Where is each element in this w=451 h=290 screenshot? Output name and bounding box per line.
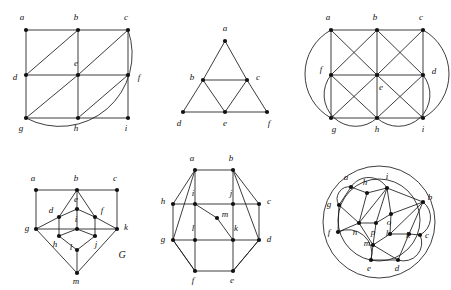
vertex-b — [375, 28, 379, 32]
edge-d-g — [36, 217, 59, 229]
vertex-e — [375, 73, 379, 77]
edge-b-d — [183, 80, 203, 112]
vertex-label-a: a — [326, 12, 331, 22]
vertex-a — [329, 28, 333, 32]
vertex-m — [215, 216, 219, 220]
vertex-label-l: l — [192, 223, 195, 233]
vertex-label-f: f — [101, 205, 105, 215]
vertex-label-e: e — [223, 118, 227, 128]
outer-arc-a-g — [305, 30, 331, 118]
vertex-m — [371, 243, 375, 247]
vertex-j — [93, 234, 97, 238]
vertex-c — [421, 28, 425, 32]
vertex-i — [193, 202, 197, 206]
edge-c-e — [225, 80, 247, 112]
octagon-graph-thirteen-vertices: abhijcmglkdfe — [155, 148, 300, 288]
vertex-label-g: g — [25, 223, 30, 233]
vertex-h — [375, 116, 379, 120]
edge-h-f — [78, 75, 128, 118]
vertex-label-a: a — [31, 173, 36, 183]
edge-d-b — [26, 30, 78, 75]
vertex-f — [265, 110, 269, 114]
edge-c-f — [247, 80, 267, 112]
vertex-d — [421, 73, 425, 77]
vertex-label-e: e — [367, 263, 371, 273]
vertex-i — [421, 116, 425, 120]
vertex-b — [75, 188, 79, 192]
vertex-f — [329, 73, 333, 77]
edge-g-e — [26, 75, 78, 118]
edge-g-n — [339, 205, 359, 223]
vertex-e — [75, 207, 79, 211]
vertex-label-d: d — [13, 72, 18, 82]
vertex-label-f: f — [320, 64, 324, 74]
vertex-b — [421, 200, 425, 204]
vertex-l — [75, 248, 79, 252]
vertex-label-i: i — [125, 123, 128, 133]
vertex-i — [385, 186, 389, 190]
vertex-p — [374, 221, 378, 225]
vertex-c — [115, 188, 119, 192]
vertex-g — [171, 238, 175, 242]
vertex-d — [396, 258, 400, 262]
vertex-l — [193, 238, 197, 242]
edge-i-m — [195, 204, 217, 218]
vertex-label-a: a — [20, 12, 25, 22]
vertex-f — [126, 73, 130, 77]
vertex-label-k: k — [234, 223, 239, 233]
vertex-f — [336, 230, 340, 234]
vertex-label-b: b — [428, 192, 433, 202]
vertex-a — [349, 185, 353, 189]
vertex-label-h: h — [53, 239, 58, 249]
vertex-label-d: d — [395, 263, 400, 273]
sierpinski-triangle-graph: abcdef — [165, 8, 285, 133]
vertex-label-a: a — [190, 153, 195, 163]
edge-b-c — [233, 170, 259, 204]
edge-f-k — [95, 217, 117, 229]
grid-graph-all-diagonals-two-arcs: abcfedghi — [303, 8, 448, 133]
vertex-b — [76, 28, 80, 32]
vertex-label-b: b — [190, 72, 195, 82]
vertex-label-f: f — [328, 227, 332, 237]
vertex-label-m: m — [364, 238, 371, 248]
vertex-e — [231, 269, 235, 273]
vertex-e — [76, 73, 80, 77]
vertex-label-i: i — [386, 171, 389, 181]
vertex-c — [418, 233, 422, 237]
grid-graph-with-arc: abcdefghi — [8, 8, 148, 133]
edge-a-c — [225, 41, 247, 80]
vertex-label-d: d — [49, 205, 54, 215]
vertex-k — [115, 227, 119, 231]
vertex-d — [181, 110, 185, 114]
vertex-f — [93, 215, 97, 219]
edge-b-e — [203, 80, 225, 112]
edge-j-l — [77, 236, 95, 250]
vertex-d — [57, 215, 61, 219]
edge-i-b — [387, 188, 423, 202]
vertex-i — [75, 227, 79, 231]
edge-e-c — [78, 30, 128, 75]
vertex-b — [231, 168, 235, 172]
graph-G-thirteen-vertices: abcedfgikhjlmG — [14, 158, 149, 286]
vertex-label-a: a — [223, 23, 228, 33]
vertex-label-b: b — [74, 173, 79, 183]
vertex-label-k: k — [124, 222, 129, 232]
vertex-f — [193, 269, 197, 273]
vertex-a — [34, 188, 38, 192]
edge-a-h — [351, 187, 367, 193]
vertex-label-e: e — [230, 275, 234, 285]
graph-caption: G — [118, 249, 125, 260]
vertex-d — [257, 238, 261, 242]
double-circle-graph-sixteen-vertices: ahibgonpflkcmed — [305, 150, 448, 288]
vertex-e — [223, 110, 227, 114]
vertex-label-n: n — [353, 227, 358, 237]
vertex-j — [231, 202, 235, 206]
vertex-label-e: e — [74, 194, 78, 204]
vertex-label-h: h — [375, 124, 380, 134]
vertex-label-p: p — [370, 227, 376, 237]
vertex-label-h: h — [363, 177, 368, 187]
vertex-label-d: d — [177, 118, 182, 128]
vertex-label-o: o — [387, 217, 392, 227]
vertex-h — [57, 234, 61, 238]
vertex-label-a: a — [344, 172, 349, 182]
